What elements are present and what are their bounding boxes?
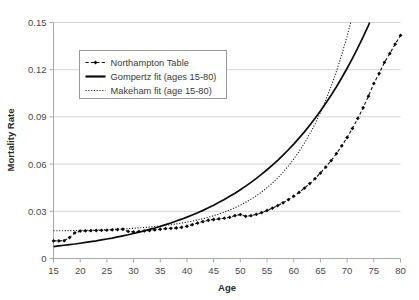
legend-label: Gompertz fit (ages 15-80): [111, 72, 217, 82]
data-point-marker: [105, 228, 109, 232]
data-point-marker: [238, 213, 242, 217]
data-point-marker: [217, 217, 221, 221]
data-point-marker: [206, 218, 210, 222]
data-point-marker: [292, 194, 296, 198]
x-tick-label: 40: [182, 265, 193, 276]
data-point-marker: [185, 224, 189, 228]
x-tick-label: 35: [155, 265, 166, 276]
data-point-marker: [212, 218, 216, 222]
x-tick-label: 30: [128, 265, 139, 276]
data-point-marker: [84, 229, 88, 233]
data-point-marker: [116, 228, 120, 232]
data-point-marker: [372, 82, 376, 86]
data-point-marker: [340, 144, 344, 148]
data-point-marker: [276, 204, 280, 208]
data-point-marker: [174, 226, 178, 230]
y-tick-label: 0.06: [28, 159, 47, 170]
data-point-marker: [244, 214, 248, 218]
mortality-rate-chart: 00.030.060.090.120.15 152025303540455055…: [0, 0, 419, 300]
data-point-marker: [158, 227, 162, 231]
y-tick-label: 0.03: [28, 206, 47, 217]
data-point-marker: [190, 223, 194, 227]
data-point-marker: [110, 228, 114, 232]
x-tick-label: 80: [395, 265, 406, 276]
data-point-marker: [196, 221, 200, 225]
chart-canvas: 00.030.060.090.120.15 152025303540455055…: [0, 0, 419, 300]
x-tick-label: 20: [75, 265, 86, 276]
data-point-marker: [254, 212, 258, 216]
data-point-marker: [201, 220, 205, 224]
data-point-marker: [228, 215, 232, 219]
x-tick-label: 60: [288, 265, 299, 276]
y-tick-label: 0.09: [28, 111, 47, 122]
data-point-marker: [52, 239, 56, 243]
x-tick-label: 70: [342, 265, 353, 276]
data-point-marker: [367, 94, 371, 98]
data-point-marker: [270, 206, 274, 210]
data-point-marker: [265, 209, 269, 213]
x-tick-label: 25: [102, 265, 113, 276]
y-tick-label: 0.12: [28, 64, 47, 75]
data-point-marker: [249, 214, 253, 218]
data-point-marker: [377, 72, 381, 76]
y-axis-title: Mortality Rate: [5, 109, 16, 172]
data-point-marker: [94, 229, 98, 233]
x-tick-label: 65: [315, 265, 326, 276]
data-point-marker: [164, 227, 168, 231]
x-tick-label: 15: [48, 265, 59, 276]
data-point-marker: [121, 227, 125, 231]
x-axis-ticks: 1520253035404550556065707580: [48, 259, 406, 276]
data-point-marker: [222, 216, 226, 220]
chart-legend: Northampton TableGompertz fit (ages 15-8…: [80, 51, 227, 99]
data-point-marker: [180, 225, 184, 229]
legend-label: Northampton Table: [111, 58, 189, 68]
y-tick-label: 0.15: [28, 17, 47, 28]
data-point-marker: [89, 229, 93, 233]
data-point-marker: [169, 226, 173, 230]
data-point-marker: [126, 230, 130, 234]
legend-label: Makeham fit (age 15-80): [111, 86, 212, 96]
x-tick-label: 45: [208, 265, 219, 276]
data-point-marker: [233, 214, 237, 218]
x-tick-label: 75: [369, 265, 380, 276]
data-point-marker: [361, 106, 365, 110]
y-axis-ticks: 00.030.060.090.120.15: [28, 17, 54, 264]
x-tick-label: 50: [235, 265, 246, 276]
data-point-marker: [100, 228, 104, 232]
data-point-marker: [57, 239, 61, 243]
x-axis-title: Age: [218, 282, 236, 293]
y-tick-label: 0: [41, 253, 46, 264]
x-tick-label: 55: [262, 265, 273, 276]
